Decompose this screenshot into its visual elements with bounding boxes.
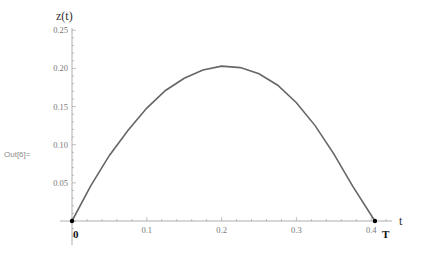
z-curve — [72, 66, 375, 221]
y-axis-title: z(t) — [56, 9, 73, 23]
x-axis-title: t — [399, 214, 403, 228]
x-tick-label: 0.3 — [291, 225, 302, 235]
y-tick-label: 0.05 — [53, 178, 68, 188]
endpoint-dot — [373, 219, 377, 223]
axes — [60, 28, 392, 245]
endpoint-label: 0 — [73, 228, 79, 240]
endpoint-label: T — [382, 228, 390, 240]
y-tick-label: 0.10 — [53, 140, 68, 150]
ticks — [72, 30, 386, 236]
x-tick-label: 0.1 — [141, 225, 152, 235]
endpoint-markers: 0T — [70, 219, 390, 240]
y-tick-label: 0.25 — [53, 25, 68, 35]
trajectory-chart: 0.10.20.30.40.050.100.150.200.25 0T z(t)… — [0, 0, 440, 255]
y-tick-label: 0.15 — [53, 102, 68, 112]
endpoint-dot — [70, 219, 74, 223]
tick-labels: 0.10.20.30.40.050.100.150.200.25 — [53, 25, 377, 235]
y-tick-label: 0.20 — [53, 63, 68, 73]
x-tick-label: 0.2 — [216, 225, 227, 235]
x-tick-label: 0.4 — [366, 225, 377, 235]
